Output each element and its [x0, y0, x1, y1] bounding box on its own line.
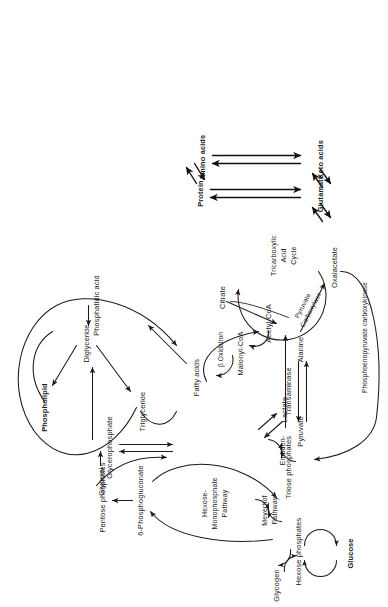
figure-viewport: Glucose Hexose phosphates Glycogen 6-Pho…: [0, 0, 388, 607]
svg-text:Acid: Acid: [279, 248, 286, 262]
pathway-diagram-canvas: Glucose Hexose phosphates Glycogen 6-Pho…: [0, 0, 388, 607]
node-label-phosphatidic-acid: Phosphatidic acid: [91, 275, 100, 335]
cycle-label-tricarboxylic-acid-cycle: Tricarboxylic Acid Cycle: [269, 234, 297, 275]
node-label-fatty-acids: Fatty acids: [191, 358, 200, 396]
node-label-glycerophosphate: Glycerophosphate: [104, 416, 113, 478]
node-label-glutamate: Glutamate: [315, 174, 324, 212]
node-label-glucose: Glucose: [345, 538, 354, 568]
edge-alanine-pyruvate: [298, 361, 306, 421]
cycle-label-embden: Embden-: [278, 435, 285, 465]
node-label-protein: Protein: [195, 179, 204, 206]
edge-ketoacids-aminoacids: [212, 155, 300, 163]
node-label-diglyceride: Diglyceride: [81, 324, 90, 362]
svg-text:Cycle: Cycle: [289, 246, 297, 264]
node-label-citrate: Citrate: [217, 286, 226, 309]
pathway-svg: Glucose Hexose phosphates Glycogen 6-Pho…: [0, 0, 388, 607]
node-label-alanine: Alanine: [295, 336, 304, 362]
edge-fattyacids-phosphatidicacid: [148, 325, 186, 363]
node-label-keto-acids: Keto acids: [315, 140, 324, 179]
enzyme-label-pepck: Phosphoenopyruvate carboxykinase: [360, 281, 368, 392]
node-label-amino-acids: Amino acids: [197, 134, 206, 180]
svg-text:Monophosphate: Monophosphate: [210, 477, 218, 529]
enzyme-label-beta-oxidation: β Oxidation: [216, 331, 224, 366]
edge-glutamate-protein: [210, 189, 300, 197]
node-label-triglyceride: Triglyceride: [137, 391, 146, 431]
edge-oxalacetate-triosep: [314, 271, 378, 459]
node-label-hexose-phosphates: Hexose phosphates: [293, 517, 302, 585]
edge-triosep-glycerophosphate: [119, 444, 172, 451]
svg-text:Hexose-: Hexose-: [200, 489, 207, 517]
edge-diglyceride-triglyceride: [96, 345, 130, 391]
node-label-glycogen: Glycogen: [271, 569, 280, 601]
edge-lactate-pyruvate: [258, 413, 282, 437]
node-label-pyruvate: Pyruvate: [295, 416, 304, 446]
node-label-phospholipid: Phospholipid: [39, 382, 48, 431]
svg-text:Tricarboxylic: Tricarboxylic: [269, 234, 277, 275]
edge-betaoxidation: [203, 331, 258, 381]
svg-text:Meyerhof: Meyerhof: [260, 495, 268, 525]
svg-text:Pathway: Pathway: [270, 496, 278, 524]
node-label-acetyl-coa: Acetyl-CoA: [263, 304, 272, 342]
node-label-oxalacetate: Oxalacetate: [329, 246, 338, 287]
node-label-6-phosphogluconate: 6-Phosphogluconate: [135, 465, 144, 536]
enzyme-label-transaminase: Transaminase: [283, 367, 292, 415]
svg-text:Pathway: Pathway: [220, 489, 228, 517]
edge-diglyceride-phospholipid: [52, 345, 76, 385]
node-label-malonyl-coa: Malonyl-CoA: [235, 331, 244, 375]
edge-glucose-hexosephosphate: [304, 529, 336, 576]
cycle-label-hexose-monophosphate-pathway: Hexose- Monophosphate Pathway: [200, 477, 228, 529]
